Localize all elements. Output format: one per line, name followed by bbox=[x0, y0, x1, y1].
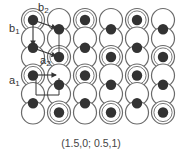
label-a2: a2 bbox=[40, 55, 51, 68]
adatom-dot bbox=[158, 24, 168, 34]
label-b1: b1 bbox=[9, 23, 20, 36]
adatom-dot bbox=[158, 52, 168, 62]
adatom-dot bbox=[132, 43, 142, 53]
adatom-dot bbox=[158, 107, 168, 117]
adatom-dot bbox=[106, 80, 116, 90]
adatom-dot bbox=[80, 15, 90, 25]
caption: (1.5,0; 0.5,1) bbox=[0, 137, 182, 149]
adatom-dot bbox=[106, 107, 116, 117]
lattice-svg bbox=[0, 0, 182, 158]
adatom-dot bbox=[80, 43, 90, 53]
adatom-dot bbox=[106, 24, 116, 34]
label-a1: a1 bbox=[9, 75, 20, 88]
adatom-dot bbox=[158, 80, 168, 90]
lattice-diagram: b2 b1 a2 a1 (1.5,0; 0.5,1) bbox=[0, 0, 182, 158]
adatom-dot bbox=[106, 52, 116, 62]
adatom-dot bbox=[132, 98, 142, 108]
label-b2: b2 bbox=[38, 2, 49, 15]
adatom-dot bbox=[80, 70, 90, 80]
adatom-dot bbox=[132, 15, 142, 25]
adatom-dot bbox=[54, 107, 64, 117]
adatom-dot bbox=[132, 70, 142, 80]
adatom-dot bbox=[80, 98, 90, 108]
adatom-dot bbox=[28, 98, 38, 108]
